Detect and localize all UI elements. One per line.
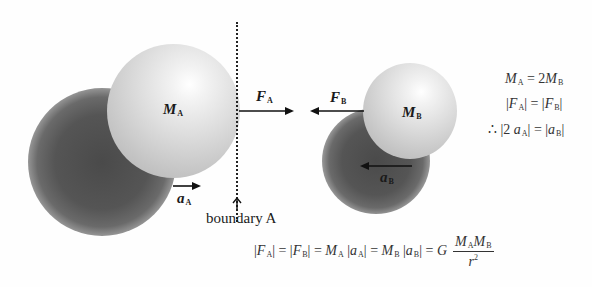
equation-newton-gravitation: |FA| = |FB| = MA |aA| = MB |aB| = GMAMBr… [254, 234, 494, 270]
accel-b-label: aB [380, 169, 394, 186]
equation-mass-ratio: MA = 2MB [505, 71, 563, 87]
mass-b-label: MB [402, 104, 422, 121]
equation-accel-ratio: ∴ |2 aA| = |aB| [488, 121, 564, 138]
equation-force-equal: |FA| = |FB| [506, 96, 562, 112]
boundary-a-line [236, 22, 238, 222]
mass-a-label: MA [163, 101, 183, 118]
force-a-arrow-icon [239, 105, 295, 117]
boundary-a-label: boundary A [206, 210, 276, 227]
force-b-label: FB [330, 89, 346, 106]
force-b-arrow-icon [310, 105, 364, 117]
force-a-label: FA [256, 88, 273, 105]
boundary-arrow-icon [230, 196, 244, 210]
gravity-fraction: MAMBr2 [453, 234, 493, 270]
accel-a-label: aA [177, 190, 191, 207]
